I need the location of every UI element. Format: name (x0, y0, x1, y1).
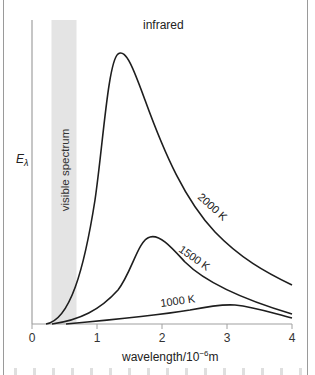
svg-text:0: 0 (29, 331, 36, 345)
visible-spectrum-label: visible spectrum (59, 129, 71, 211)
infrared-label: infrared (143, 18, 184, 32)
curve-label-1000k: 1000 K (160, 292, 197, 309)
y-axis-label: Eλ (16, 152, 28, 168)
curve-label-2000k: 2000 K (196, 191, 230, 224)
svg-text:2: 2 (159, 331, 166, 345)
curve-1500k (52, 237, 292, 324)
x-tick-labels: 0 1 2 3 4 (29, 331, 296, 345)
svg-text:1: 1 (94, 331, 101, 345)
chart-canvas: visible spectrum 0 1 2 3 4 Eλ wavelength… (0, 0, 315, 375)
x-ticks (32, 324, 292, 329)
svg-text:3: 3 (224, 331, 231, 345)
x-axis-label: wavelength/10−6m (121, 349, 219, 364)
svg-text:4: 4 (289, 331, 296, 345)
curve-1000k (66, 305, 292, 324)
curve-2000k (46, 53, 292, 324)
cropped-caption-text (14, 368, 304, 375)
